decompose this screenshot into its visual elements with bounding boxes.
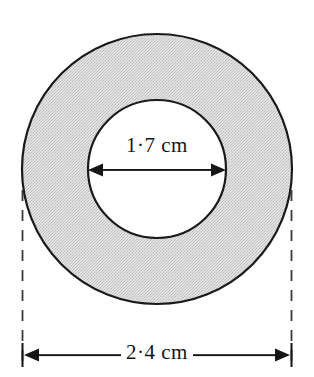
outer-diameter-value: 2·4 cm bbox=[121, 340, 193, 364]
geometry-figure: 1·7 cm 2·4 cm bbox=[0, 0, 314, 377]
annulus-shape bbox=[0, 0, 314, 377]
outer-diameter-label: 2·4 cm bbox=[0, 340, 314, 364]
annulus-diagram-svg bbox=[0, 0, 314, 377]
inner-diameter-value: 1·7 cm bbox=[121, 133, 193, 157]
inner-diameter-label: 1·7 cm bbox=[0, 133, 314, 157]
